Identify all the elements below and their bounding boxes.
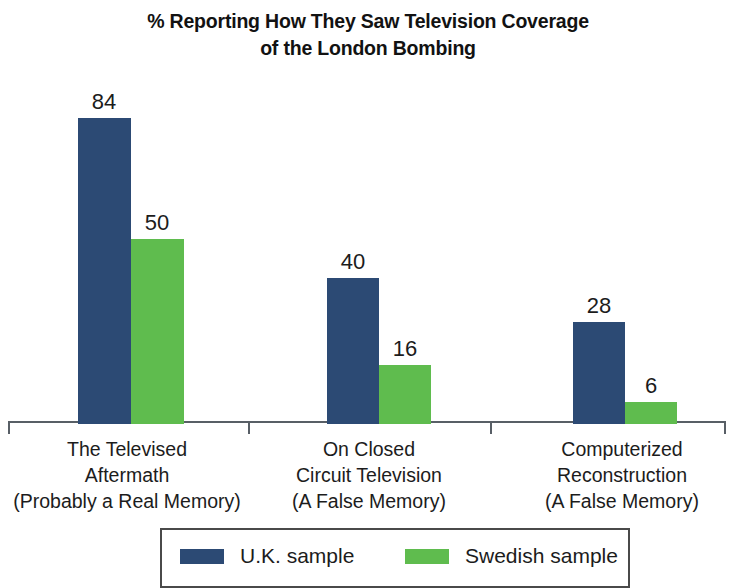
legend-item-swedish-sample: Swedish sample	[405, 544, 618, 568]
legend-label-uk-sample: U.K. sample	[240, 544, 354, 568]
category-label-closed-circuit: On Closed Circuit Television (A False Me…	[262, 436, 476, 514]
legend-label-swedish-sample: Swedish sample	[465, 544, 618, 568]
category-label-computerized-reconstruction-line-2: Reconstruction	[515, 462, 729, 488]
bar-value-uk-computerized-reconstruction: 28	[559, 294, 639, 318]
bar-value-swedish-computerized-reconstruction: 6	[611, 374, 691, 398]
category-label-televised-aftermath-line-2: Aftermath	[6, 462, 248, 488]
legend-item-uk-sample: U.K. sample	[180, 544, 354, 568]
chart-legend: U.K. sample Swedish sample	[160, 528, 630, 588]
x-axis-tick-start	[8, 423, 10, 434]
category-label-computerized-reconstruction-line-1: Computerized	[515, 436, 729, 462]
bar-value-swedish-closed-circuit: 16	[365, 337, 445, 361]
x-axis-tick-end	[724, 423, 726, 434]
bar-uk-computerized-reconstruction	[573, 322, 625, 424]
category-label-closed-circuit-line-3: (A False Memory)	[262, 488, 476, 514]
bar-swedish-televised-aftermath	[131, 239, 184, 424]
x-axis-tick-1	[248, 423, 250, 434]
category-label-televised-aftermath-line-3: (Probably a Real Memory)	[6, 488, 248, 514]
plot-area: 84 50 40 16 28 6	[0, 0, 736, 424]
category-label-computerized-reconstruction-line-3: (A False Memory)	[515, 488, 729, 514]
bar-swedish-computerized-reconstruction	[625, 402, 677, 424]
legend-swatch-swedish-sample	[405, 549, 449, 564]
category-label-computerized-reconstruction: Computerized Reconstruction (A False Mem…	[515, 436, 729, 514]
bar-swedish-closed-circuit	[379, 365, 431, 424]
bar-value-uk-closed-circuit: 40	[313, 250, 393, 274]
category-label-closed-circuit-line-2: Circuit Television	[262, 462, 476, 488]
category-label-televised-aftermath-line-1: The Televised	[6, 436, 248, 462]
x-axis-tick-2	[490, 423, 492, 434]
category-label-closed-circuit-line-1: On Closed	[262, 436, 476, 462]
legend-swatch-uk-sample	[180, 549, 224, 564]
bar-uk-televised-aftermath	[78, 118, 131, 424]
bar-value-uk-televised-aftermath: 84	[64, 90, 144, 114]
bar-value-swedish-televised-aftermath: 50	[117, 211, 197, 235]
category-label-televised-aftermath: The Televised Aftermath (Probably a Real…	[6, 436, 248, 514]
